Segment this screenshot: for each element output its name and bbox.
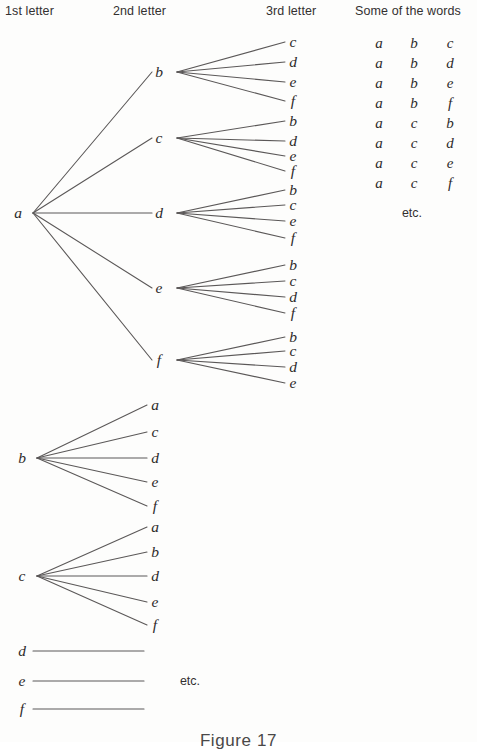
word-row-3-letter-1: b	[410, 95, 418, 112]
word-row-4-letter-0: a	[375, 115, 383, 132]
node-level1-c: c	[19, 567, 26, 585]
branch-c-to-f-7	[177, 138, 285, 171]
branch-c-to-e-3	[37, 576, 147, 602]
node-level2-f-4: f	[157, 351, 161, 369]
node-c-child-a-0: a	[151, 518, 159, 536]
branch-a-to-b-0	[33, 72, 152, 213]
branch-b-to-f-3	[177, 72, 285, 101]
node-b-child-a-0: a	[151, 396, 159, 414]
diagram-etc-label: etc.	[180, 674, 200, 688]
node-level1-f: f	[20, 700, 24, 718]
node-level3-c-0: c	[290, 33, 297, 51]
word-list-etc-label: etc.	[402, 206, 422, 220]
node-level2-d-2: d	[155, 204, 163, 222]
node-level2-b-0: b	[155, 63, 163, 81]
node-level3-f-15: f	[291, 304, 295, 322]
branch-a-to-c-1	[33, 138, 152, 213]
word-row-6-letter-1: c	[411, 155, 418, 172]
branch-a-to-f-4	[33, 213, 152, 360]
column-header-4: Some of the words	[355, 4, 461, 18]
word-row-2-letter-1: b	[410, 75, 418, 92]
node-b-child-c-1: c	[152, 423, 159, 441]
branch-b-to-e-2	[177, 72, 285, 82]
node-c-child-d-2: d	[151, 567, 159, 585]
word-row-0-letter-1: b	[410, 35, 418, 52]
branch-b-to-f-4	[37, 458, 147, 506]
word-row-6-letter-0: a	[375, 155, 383, 172]
word-row-4-letter-2: b	[446, 115, 454, 132]
column-header-3: 3rd letter	[266, 4, 316, 18]
node-level3-f-7: f	[291, 162, 295, 180]
word-row-2-letter-0: a	[375, 75, 383, 92]
word-row-3-letter-2: f	[448, 95, 452, 112]
node-c-child-b-1: b	[151, 543, 159, 561]
branch-f-to-b-16	[177, 337, 285, 360]
node-level2-c-1: c	[156, 129, 163, 147]
word-row-7-letter-1: c	[411, 175, 418, 192]
branch-c-to-f-4	[37, 576, 147, 625]
node-level3-f-11: f	[291, 229, 295, 247]
node-level3-e-19: e	[290, 374, 297, 392]
word-row-3-letter-0: a	[375, 95, 383, 112]
word-row-5-letter-0: a	[375, 135, 383, 152]
node-b-child-e-3: e	[152, 473, 159, 491]
node-level1-a: a	[14, 204, 22, 222]
column-header-1: 1st letter	[5, 4, 54, 18]
branch-e-to-d-14	[177, 288, 285, 297]
word-row-6-letter-2: e	[447, 155, 454, 172]
branch-e-to-f-15	[177, 288, 285, 313]
word-row-1-letter-1: b	[410, 55, 418, 72]
word-row-7-letter-2: f	[448, 175, 452, 192]
word-row-1-letter-2: d	[446, 55, 454, 72]
branch-a-to-e-3	[33, 213, 152, 288]
branch-c-to-b-1	[37, 552, 147, 576]
node-b-child-d-2: d	[151, 449, 159, 467]
word-row-0-letter-2: c	[447, 35, 454, 52]
branch-b-to-a-0	[37, 405, 147, 458]
branch-b-to-c-1	[37, 432, 147, 458]
node-level3-b-4: b	[289, 112, 297, 130]
branch-f-to-c-17	[177, 351, 285, 360]
node-b-child-f-4: f	[153, 497, 157, 515]
word-row-5-letter-2: d	[446, 135, 454, 152]
branch-c-to-a-0	[37, 527, 147, 576]
word-row-5-letter-1: c	[411, 135, 418, 152]
branch-b-to-e-3	[37, 458, 147, 482]
node-level3-e-2: e	[290, 73, 297, 91]
node-c-child-e-3: e	[152, 593, 159, 611]
figure-caption: Figure 17	[0, 731, 477, 751]
word-row-7-letter-0: a	[375, 175, 383, 192]
node-level3-d-1: d	[289, 53, 297, 71]
word-row-2-letter-2: e	[447, 75, 454, 92]
node-level1-d: d	[18, 642, 26, 660]
word-row-0-letter-0: a	[375, 35, 383, 52]
node-level3-e-10: e	[290, 212, 297, 230]
node-level3-f-3: f	[291, 92, 295, 110]
node-level1-e: e	[19, 672, 26, 690]
branch-c-to-b-4	[177, 121, 285, 138]
word-row-1-letter-0: a	[375, 55, 383, 72]
node-level1-b: b	[18, 449, 26, 467]
node-c-child-f-4: f	[153, 616, 157, 634]
node-level2-e-3: e	[156, 279, 163, 297]
word-row-4-letter-1: c	[411, 115, 418, 132]
column-header-2: 2nd letter	[113, 4, 166, 18]
